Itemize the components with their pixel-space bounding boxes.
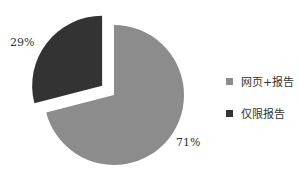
slice-label-web-report: 71% [176, 136, 200, 149]
pie-slice-report-only [32, 16, 102, 103]
legend-label-report-only: 仅限报告 [241, 105, 285, 121]
slice-label-report-only: 29% [10, 36, 34, 49]
legend-item-report-only: 仅限报告 [226, 105, 285, 121]
legend-swatch-web-report [226, 78, 233, 85]
pie-chart [0, 0, 300, 178]
legend-label-web-report: 网页+报告 [241, 73, 294, 89]
legend-item-web-report: 网页+报告 [226, 73, 294, 89]
legend-swatch-report-only [226, 110, 233, 117]
